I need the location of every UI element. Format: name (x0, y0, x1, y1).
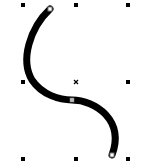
selection-handle-bottom-right[interactable] (126, 157, 130, 161)
mid-node-handle[interactable] (70, 98, 74, 102)
selection-handle-middle-right[interactable] (126, 80, 130, 84)
selection-handle-middle-left[interactable] (21, 80, 25, 84)
center-marker-icon[interactable] (74, 80, 78, 84)
selection-handle-top-center[interactable] (74, 3, 78, 7)
drawing-canvas[interactable] (0, 0, 144, 165)
s-curve-path[interactable] (27, 9, 115, 155)
start-node-handle[interactable] (48, 7, 52, 11)
selection-handle-top-left[interactable] (21, 3, 25, 7)
end-node-handle[interactable] (110, 153, 114, 157)
selection-handle-bottom-center[interactable] (74, 157, 78, 161)
selection-handle-bottom-left[interactable] (21, 157, 25, 161)
selection-handle-top-right[interactable] (126, 3, 130, 7)
